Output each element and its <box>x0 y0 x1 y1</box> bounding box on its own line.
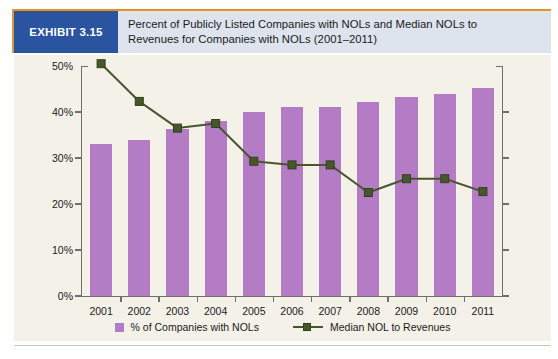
bar-2002 <box>128 140 150 296</box>
x-axis-tick <box>464 296 465 302</box>
chart-legend: % of Companies with NOLs Median NOL to R… <box>14 321 551 333</box>
exhibit-figure: EXHIBIT 3.15 Percent of Publicly Listed … <box>0 0 558 359</box>
y-axis-tick <box>75 295 82 296</box>
x-axis-label: 2001 <box>89 305 112 317</box>
x-axis-tick <box>273 296 274 302</box>
x-axis-tick <box>197 296 198 302</box>
x-axis-tick <box>235 296 236 302</box>
x-axis-label: 2011 <box>472 305 495 317</box>
x-axis-label: 2004 <box>204 305 227 317</box>
y-axis-tick <box>75 203 82 204</box>
x-axis-tick <box>349 296 350 302</box>
legend-label-companies-with-nols: % of Companies with NOLs <box>131 321 259 333</box>
plot-area: 0%10%20%30%40%50% 2001200220032004200520… <box>81 66 503 297</box>
y-axis-tick-right <box>502 203 509 204</box>
y-axis-tick-right <box>502 295 509 296</box>
x-axis-label: 2003 <box>166 305 189 317</box>
x-axis-label: 2008 <box>357 305 380 317</box>
y-axis-label: 40% <box>52 106 73 118</box>
exhibit-title-line-2: Revenues for Companies with NOLs (2001–2… <box>128 32 543 48</box>
y-axis-label: 30% <box>52 152 73 164</box>
x-axis-label: 2006 <box>280 305 303 317</box>
y-axis-top-cap-left <box>81 66 88 67</box>
chart-panel: 0%10%20%30%40%50% 2001200220032004200520… <box>14 55 551 341</box>
x-axis-tick <box>426 296 427 302</box>
bar-2006 <box>281 107 303 296</box>
legend-item-median-nol-to-revenues: Median NOL to Revenues <box>293 321 450 333</box>
y-axis-tick <box>75 111 82 112</box>
bar-2007 <box>319 107 341 296</box>
y-axis-tick-right <box>502 111 509 112</box>
y-axis-label: 20% <box>52 198 73 210</box>
y-axis-tick-right <box>502 249 509 250</box>
y-axis-label: 50% <box>52 60 73 72</box>
bar-2008 <box>357 102 379 296</box>
x-axis-label: 2007 <box>318 305 341 317</box>
x-axis-label: 2002 <box>128 305 151 317</box>
y-axis-tick-right <box>502 157 509 158</box>
x-axis-label: 2009 <box>395 305 418 317</box>
bar-2009 <box>395 97 417 296</box>
y-axis-tick <box>75 249 82 250</box>
bar-2011 <box>472 88 494 296</box>
x-axis-tick <box>311 296 312 302</box>
y-axis-label: 10% <box>52 244 73 256</box>
exhibit-number-label: EXHIBIT 3.15 <box>29 26 102 38</box>
legend-label-median-nol-to-revenues: Median NOL to Revenues <box>330 321 450 333</box>
x-axis-tick <box>387 296 388 302</box>
y-axis-tick <box>75 157 82 158</box>
exhibit-title-line-1: Percent of Publicly Listed Companies wit… <box>128 17 543 33</box>
legend-item-companies-with-nols: % of Companies with NOLs <box>115 321 259 333</box>
exhibit-number-badge: EXHIBIT 3.15 <box>14 11 118 53</box>
bar-2003 <box>166 129 188 296</box>
panel-bottom-rule <box>14 345 551 346</box>
line-marker-2002 <box>135 97 143 105</box>
bar-2010 <box>434 94 456 296</box>
bar-2005 <box>243 112 265 296</box>
line-marker-2001 <box>97 60 105 68</box>
x-axis-label: 2005 <box>242 305 265 317</box>
exhibit-title: Percent of Publicly Listed Companies wit… <box>128 11 543 53</box>
x-axis-label: 2010 <box>433 305 456 317</box>
legend-bar-swatch-icon <box>115 323 124 332</box>
bar-2001 <box>90 144 112 296</box>
x-axis-tick <box>158 296 159 302</box>
x-axis-tick <box>120 296 121 302</box>
y-axis-top-cap-right <box>496 66 503 67</box>
legend-line-swatch-icon <box>293 323 323 332</box>
bar-2004 <box>205 121 227 296</box>
y-axis-label: 0% <box>58 290 73 302</box>
